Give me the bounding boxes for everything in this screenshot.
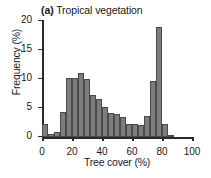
plot-area: 05101520020406080100 bbox=[42, 21, 192, 137]
y-axis-tick: 5 bbox=[38, 107, 42, 109]
x-axis-tick: 40 bbox=[102, 137, 104, 141]
x-axis-tick: 20 bbox=[72, 137, 74, 141]
y-axis-tick-label: 15 bbox=[21, 44, 32, 54]
x-axis-tick: 0 bbox=[42, 137, 44, 141]
panel-letter: (a) bbox=[41, 4, 54, 16]
x-axis-tick-label: 80 bbox=[156, 147, 167, 157]
x-axis-tick-label: 20 bbox=[66, 147, 77, 157]
x-axis-tick: 80 bbox=[162, 137, 164, 141]
y-axis-tick: 20 bbox=[38, 20, 42, 22]
x-axis-tick: 100 bbox=[192, 137, 194, 141]
x-axis-tick-label: 40 bbox=[96, 147, 107, 157]
x-axis-tick-label: 100 bbox=[184, 147, 201, 157]
y-axis-tick: 10 bbox=[38, 78, 42, 80]
histogram-bar bbox=[156, 27, 162, 137]
histogram-bar bbox=[168, 135, 174, 137]
chart-figure: (a) Tropical vegetation Frequency (%) Tr… bbox=[0, 0, 211, 178]
y-axis-tick: 15 bbox=[38, 49, 42, 51]
x-axis-tick-label: 60 bbox=[126, 147, 137, 157]
y-axis-tick-label: 10 bbox=[21, 73, 32, 83]
y-axis-tick-label: 20 bbox=[21, 15, 32, 25]
x-axis-label: Tree cover (%) bbox=[42, 156, 192, 168]
y-axis-label: Frequency (%) bbox=[10, 10, 22, 114]
y-axis-tick-label: 0 bbox=[26, 131, 32, 141]
chart-title: (a) Tropical vegetation bbox=[41, 4, 143, 16]
x-axis-tick: 60 bbox=[132, 137, 134, 141]
chart-title-text: Tropical vegetation bbox=[54, 4, 143, 16]
x-axis-tick-label: 0 bbox=[39, 147, 45, 157]
x-axis-line bbox=[42, 137, 193, 139]
y-axis-tick-label: 5 bbox=[26, 102, 32, 112]
